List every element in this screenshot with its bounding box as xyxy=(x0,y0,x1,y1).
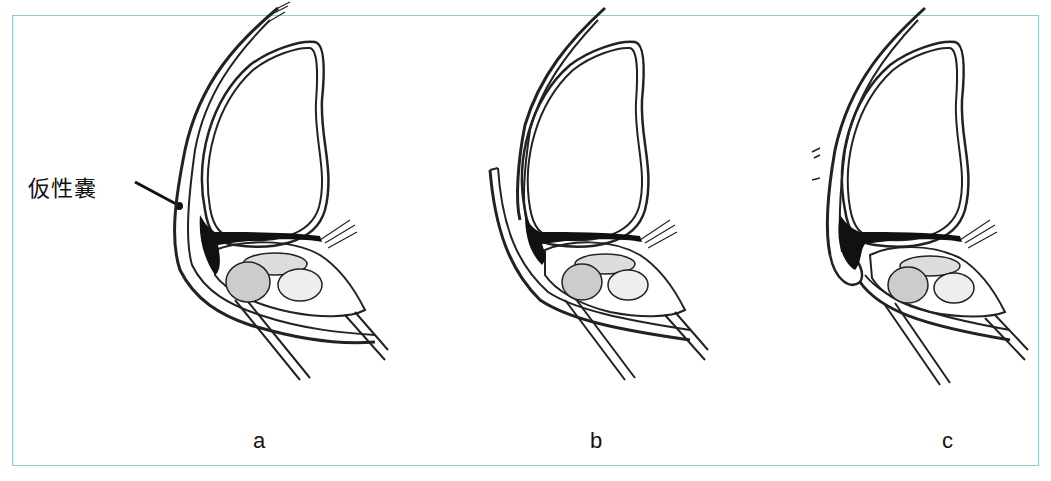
panel-label-a: a xyxy=(253,428,265,454)
panel-b: b xyxy=(470,0,720,400)
panel-label-b: b xyxy=(590,428,602,454)
anatomy-illustration-c xyxy=(790,0,1040,400)
anatomy-illustration-a xyxy=(150,0,400,400)
panel-c: c xyxy=(790,0,1040,400)
anatomy-illustration-b xyxy=(470,0,720,400)
panel-a: a xyxy=(150,0,400,400)
panel-label-c: c xyxy=(942,428,953,454)
